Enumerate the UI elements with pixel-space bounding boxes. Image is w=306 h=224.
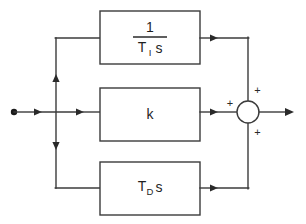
proportional-output-routing	[200, 108, 237, 115]
block-derivative-subscript: D	[147, 186, 154, 197]
block-derivative[interactable]: T D s	[100, 162, 200, 215]
block-integral[interactable]: 1 T I s	[100, 11, 200, 64]
output-group	[259, 108, 294, 116]
block-derivative-suffix: s	[156, 179, 163, 195]
summing-junction-circle[interactable]	[237, 101, 259, 123]
integral-output-routing	[200, 34, 249, 101]
derivative-output-routing	[200, 123, 249, 192]
branch-down-arrow-icon	[52, 142, 59, 150]
block-integral-numerator: 1	[146, 19, 154, 35]
summing-junction[interactable]: + + +	[227, 84, 261, 138]
sum-sign-bottom-right: +	[254, 126, 260, 138]
block-derivative-base: T	[138, 178, 147, 194]
block-integral-denominator-suffix: s	[156, 40, 163, 56]
output-arrow-icon	[285, 108, 294, 116]
sum-sign-top-right: +	[254, 84, 260, 96]
block-proportional-label: k	[147, 106, 155, 122]
sum-sign-left: +	[227, 97, 233, 109]
branch-up-arrow-icon	[52, 74, 59, 82]
block-integral-denominator-base: T	[138, 39, 147, 55]
block-integral-denominator-subscript: I	[149, 47, 152, 58]
diagram-canvas: 1 T I s k T D s	[0, 0, 306, 224]
pid-block-diagram: 1 T I s k T D s	[0, 0, 306, 224]
block-proportional[interactable]: k	[100, 88, 200, 141]
